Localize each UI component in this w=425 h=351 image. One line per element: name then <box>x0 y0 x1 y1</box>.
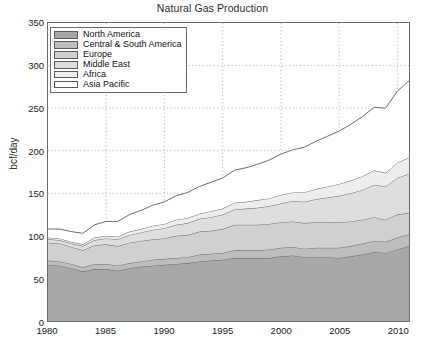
y-tick-label: 100 <box>4 231 44 242</box>
x-tick-label: 2005 <box>320 325 360 336</box>
x-tick-label: 2010 <box>378 325 418 336</box>
chart-title: Natural Gas Production <box>0 2 425 14</box>
legend-swatch-icon <box>54 31 78 39</box>
x-tick-label: 1990 <box>144 325 184 336</box>
legend-swatch-icon <box>54 81 78 89</box>
legend-swatch-icon <box>54 41 78 49</box>
chart-figure: Natural Gas Production bcf/day 050100150… <box>0 0 425 351</box>
y-tick-label: 250 <box>4 102 44 113</box>
legend-item[interactable]: Asia Pacific <box>54 80 182 90</box>
y-axis-tick-labels: 050100150200250300350 <box>0 22 44 322</box>
legend-item[interactable]: Africa <box>54 70 182 80</box>
chart-legend: North AmericaCentral & South AmericaEuro… <box>50 27 187 93</box>
x-tick-label: 2000 <box>261 325 301 336</box>
legend-item-label: Africa <box>83 70 106 80</box>
legend-item-label: Asia Pacific <box>83 80 130 90</box>
x-tick-label: 1995 <box>203 325 243 336</box>
y-tick-label: 300 <box>4 59 44 70</box>
legend-swatch-icon <box>54 61 78 69</box>
y-tick-label: 350 <box>4 17 44 28</box>
y-tick-label: 200 <box>4 145 44 156</box>
legend-item[interactable]: Middle East <box>54 60 182 70</box>
y-tick-label: 150 <box>4 188 44 199</box>
legend-swatch-icon <box>54 71 78 79</box>
legend-item[interactable]: Central & South America <box>54 40 182 50</box>
x-tick-label: 1985 <box>86 325 126 336</box>
x-tick-label: 1980 <box>27 325 67 336</box>
legend-swatch-icon <box>54 51 78 59</box>
y-tick-label: 50 <box>4 274 44 285</box>
x-axis-tick-labels: 1980198519901995200020052010 <box>47 325 410 341</box>
